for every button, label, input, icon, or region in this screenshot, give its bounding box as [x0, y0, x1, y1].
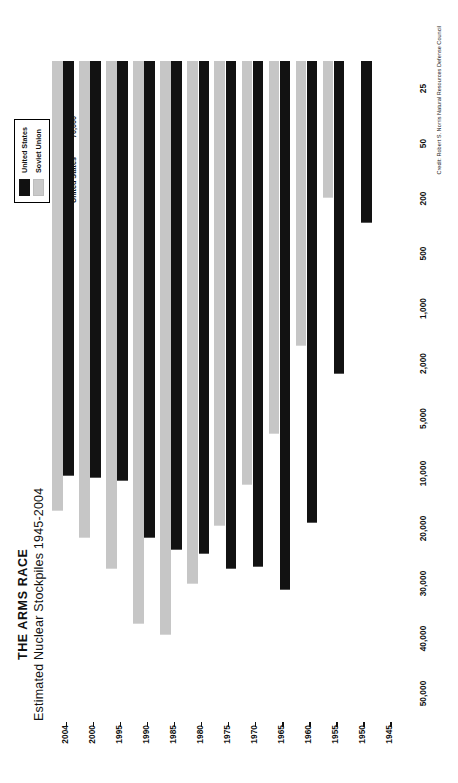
value-axis: 50,00040,00030,00020,00010,0005,0002,000… [418, 61, 452, 721]
year-tick-1945 [390, 722, 391, 727]
legend-swatch-soviet-union [33, 179, 44, 196]
year-label-1960: 1960 [303, 725, 313, 759]
year-label-1950: 1950 [357, 725, 367, 759]
bar-rows [52, 61, 404, 721]
bar-soviet-union-1955 [323, 61, 334, 199]
bar-guide-line [79, 537, 90, 538]
bar-soviet-union-2004 [52, 61, 63, 511]
bar-guide-line [117, 480, 128, 481]
bar-soviet-union-1960 [296, 61, 307, 346]
year-label-1980: 1980 [195, 725, 205, 759]
year-tick-2000 [93, 722, 94, 727]
year-label-1965: 1965 [276, 725, 286, 759]
bar-row [106, 61, 133, 721]
year-tick-1960 [309, 722, 310, 727]
bar-row [242, 61, 269, 721]
bar-guide-line [199, 553, 210, 554]
year-label-1985: 1985 [168, 725, 178, 759]
bar-soviet-union-1995 [106, 61, 117, 569]
bar-soviet-union-1970 [242, 61, 253, 485]
bar-guide-line [133, 623, 144, 624]
bar-guide-line [144, 537, 155, 538]
bar-guide-line [296, 345, 307, 346]
year-label-2004: 2004 [60, 725, 70, 759]
bar-row [269, 61, 296, 721]
chart-canvas: THE ARMS RACE Estimated Nuclear Stockpil… [0, 0, 458, 783]
bar-guide-line [269, 433, 280, 434]
bar-guide-line [90, 477, 101, 478]
bar-united-states-1970 [253, 61, 264, 567]
bar-guide-line [253, 566, 264, 567]
value-tick-label-5000: 5,000 [418, 408, 428, 429]
page-title: THE ARMS RACE [16, 488, 30, 721]
year-label-1990: 1990 [141, 725, 151, 759]
bar-soviet-union-1965 [269, 61, 280, 434]
value-tick-label-50: 50 [418, 139, 428, 148]
bar-soviet-union-1985 [160, 61, 171, 635]
bar-guide-line [226, 568, 237, 569]
bar-guide-line [334, 373, 345, 374]
value-tick-label-200: 200 [418, 192, 428, 206]
legend-swatch-united-states [19, 179, 30, 196]
bar-guide-line [106, 568, 117, 569]
value-tick-label-10000: 10,000 [418, 461, 428, 487]
value-tick-label-20000: 20,000 [418, 516, 428, 542]
bar-soviet-union-2000 [79, 61, 90, 538]
bar-united-states-2000 [90, 61, 101, 478]
value-tick-label-30000: 30,000 [418, 571, 428, 597]
legend-item-soviet-union: Soviet Union [33, 127, 44, 196]
bar-soviet-union-1975 [214, 61, 225, 526]
bar-guide-line [63, 475, 74, 476]
bar-guide-line [242, 484, 253, 485]
year-label-2000: 2000 [87, 725, 97, 759]
bar-guide-line [171, 549, 182, 550]
bar-soviet-union-1990 [133, 61, 144, 624]
plot-area [52, 61, 404, 721]
value-tick-label-40000: 40,000 [418, 626, 428, 652]
value-tick-label-2000: 2,000 [418, 353, 428, 374]
bar-united-states-1995 [117, 61, 128, 481]
bar-soviet-union-1980 [187, 61, 198, 584]
bar-united-states-1960 [307, 61, 318, 523]
year-label-1970: 1970 [249, 725, 259, 759]
value-tick-label-500: 500 [418, 247, 428, 261]
year-tick-1985 [174, 722, 175, 727]
page-subtitle: Estimated Nuclear Stockpiles 1945-2004 [32, 488, 46, 721]
bar-united-states-1950 [361, 61, 372, 223]
bar-united-states-1980 [199, 61, 210, 554]
bar-united-states-1965 [280, 61, 291, 590]
bar-guide-line [52, 510, 63, 511]
bar-guide-line [280, 589, 291, 590]
bar-row [323, 61, 350, 721]
bar-united-states-1985 [171, 61, 182, 550]
bar-row [187, 61, 214, 721]
legend-box: United States Soviet Union [14, 119, 50, 203]
bar-row [52, 61, 79, 721]
year-label-1945: 1945 [384, 725, 394, 759]
year-tick-1990 [147, 722, 148, 727]
value-tick-label-50000: 50,000 [418, 681, 428, 707]
year-label-1975: 1975 [222, 725, 232, 759]
year-tick-1965 [282, 722, 283, 727]
bar-guide-line [323, 198, 334, 199]
year-tick-1955 [336, 722, 337, 727]
bar-row [377, 61, 404, 721]
value-tick-label-1000: 1,000 [418, 298, 428, 319]
legend-label-soviet-union: Soviet Union [34, 129, 43, 173]
bar-united-states-1975 [226, 61, 237, 569]
bar-united-states-2004 [63, 61, 74, 476]
bar-row [79, 61, 106, 721]
bar-guide-line [160, 634, 171, 635]
bar-united-states-1990 [144, 61, 155, 538]
year-tick-2004 [66, 722, 67, 727]
year-tick-1975 [228, 722, 229, 727]
year-tick-1995 [120, 722, 121, 727]
bar-guide-line [187, 583, 198, 584]
year-tick-1980 [201, 722, 202, 727]
bar-united-states-1955 [334, 61, 345, 374]
year-label-1995: 1995 [114, 725, 124, 759]
year-tick-1950 [363, 722, 364, 727]
bar-guide-line [214, 525, 225, 526]
bar-guide-line [307, 522, 318, 523]
bar-row [214, 61, 241, 721]
